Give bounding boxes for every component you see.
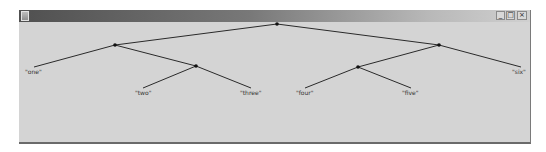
maximize-button[interactable]: □ bbox=[506, 11, 515, 20]
tree-edge bbox=[143, 66, 196, 88]
leaf-label: "five" bbox=[402, 89, 419, 96]
tree-edge bbox=[358, 45, 439, 67]
tree-edge bbox=[196, 66, 251, 88]
tree-edge bbox=[277, 24, 439, 45]
tree-node bbox=[437, 43, 441, 47]
leaf-label: "two" bbox=[135, 89, 151, 96]
leaf-label: "three" bbox=[240, 89, 261, 96]
leaf-label: "four" bbox=[296, 89, 314, 96]
tree-edge bbox=[439, 45, 521, 67]
tree-diagram bbox=[19, 22, 530, 142]
close-button[interactable]: × bbox=[517, 11, 527, 20]
tree-node bbox=[356, 65, 360, 69]
tree-node bbox=[194, 64, 198, 68]
tree-node bbox=[275, 22, 279, 26]
tree-edge bbox=[305, 67, 358, 88]
tree-node bbox=[113, 43, 117, 47]
tree-edge bbox=[34, 45, 115, 67]
app-icon[interactable] bbox=[21, 11, 29, 21]
title-bar[interactable]: _ □ × bbox=[19, 10, 530, 22]
tree-edge bbox=[358, 67, 411, 88]
leaf-label: "one" bbox=[25, 68, 42, 75]
minimize-button[interactable]: _ bbox=[496, 11, 505, 20]
tree-edge bbox=[115, 24, 277, 45]
leaf-label: "six" bbox=[512, 68, 526, 75]
tree-edge bbox=[115, 45, 196, 66]
tree-window: _ □ × "one""two""three""four""five""six" bbox=[19, 10, 531, 144]
